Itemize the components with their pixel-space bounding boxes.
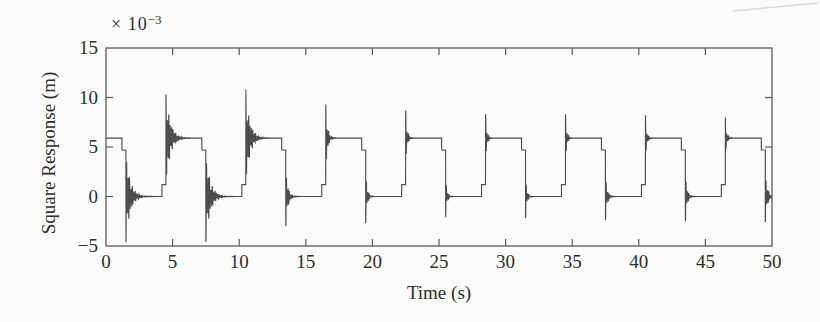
x-axis-label: Time (s) — [359, 282, 519, 304]
response-waveform — [106, 90, 772, 242]
x-tick-label: 35 — [550, 251, 594, 273]
x-tick-label: 20 — [350, 251, 394, 273]
x-tick-label: 5 — [151, 251, 195, 273]
x-tick-label: 10 — [217, 251, 261, 273]
x-tick-label: 25 — [417, 251, 461, 273]
x-tick-label: 30 — [484, 251, 528, 273]
y-tick-label: −5 — [30, 235, 98, 257]
x-tick-label: 15 — [284, 251, 328, 273]
y-tick-label: 10 — [30, 87, 98, 109]
y-axis-multiplier-prefix: × 10 — [111, 14, 148, 34]
scan-artifact — [733, 3, 818, 11]
y-tick-label: 0 — [30, 186, 98, 208]
y-tick-label: 15 — [30, 37, 98, 59]
x-tick-label: 50 — [750, 251, 794, 273]
chart-canvas — [0, 0, 820, 322]
y-axis-multiplier-exponent: −3 — [148, 12, 162, 27]
figure: × 10−3 Square Response (m) Time (s) 0510… — [0, 0, 820, 322]
y-tick-label: 5 — [30, 136, 98, 158]
y-axis-multiplier: × 10−3 — [111, 12, 162, 35]
x-tick-label: 45 — [683, 251, 727, 273]
x-tick-label: 40 — [617, 251, 661, 273]
